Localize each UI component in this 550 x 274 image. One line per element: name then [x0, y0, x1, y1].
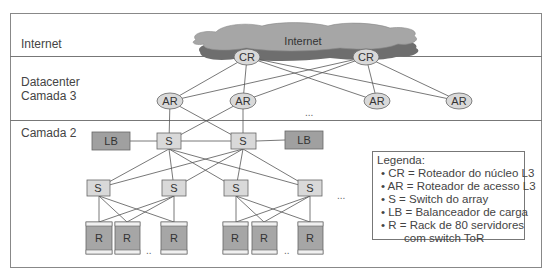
svg-text:S: S — [170, 182, 177, 194]
svg-text:S: S — [232, 182, 239, 194]
core-router-2: CR — [353, 49, 379, 65]
svg-text:R: R — [231, 232, 239, 244]
rack-2: R — [115, 222, 140, 254]
svg-text:CR: CR — [239, 51, 255, 63]
rack-6: R — [298, 222, 323, 254]
access-router-4: AR — [446, 93, 472, 109]
legend-title: Legenda: — [377, 154, 524, 167]
svg-text:S: S — [306, 182, 313, 194]
svg-text:S: S — [239, 135, 246, 147]
svg-text:LB: LB — [297, 134, 310, 146]
svg-text:R: R — [306, 232, 314, 244]
legend-item-r: • R = Rack de 80 servidores — [377, 219, 524, 232]
core-router-1: CR — [234, 49, 260, 65]
svg-text:R: R — [95, 232, 103, 244]
access-router-2: AR — [230, 93, 256, 109]
legend-item-r-continuation: com switch ToR — [377, 232, 524, 245]
cloud-label: Internet — [284, 35, 321, 47]
rack-4: R — [223, 222, 248, 254]
legend-item-cr: • CR = Roteador do núcleo L3 — [377, 167, 524, 180]
svg-text:R: R — [260, 232, 268, 244]
svg-text:AR: AR — [235, 95, 250, 107]
svg-text:R: R — [123, 232, 131, 244]
access-switch-1: S — [87, 180, 110, 196]
rack-5: R — [252, 222, 277, 254]
svg-text:AR: AR — [162, 95, 177, 107]
ar-row-ellipsis: ... — [305, 107, 313, 118]
rack-group-1-ellipsis: .. — [146, 245, 152, 256]
load-balancer-1: LB — [92, 132, 130, 150]
legend-item-lb: • LB = Balanceador de carga — [377, 206, 524, 219]
svg-text:LB: LB — [104, 135, 117, 147]
svg-text:CR: CR — [358, 51, 374, 63]
svg-text:AR: AR — [451, 95, 466, 107]
svg-text:S: S — [94, 182, 101, 194]
agg-switch-2: S — [231, 133, 256, 149]
access-router-3: AR — [364, 93, 390, 109]
rack-1: R — [86, 222, 112, 254]
access-switch-3: S — [224, 180, 248, 196]
switch-row-ellipsis: ... — [337, 190, 345, 201]
svg-text:S: S — [165, 135, 172, 147]
access-switch-2: S — [162, 180, 186, 196]
access-switch-4: S — [298, 180, 322, 196]
svg-text:AR: AR — [369, 95, 384, 107]
svg-text:R: R — [170, 232, 178, 244]
access-router-1: AR — [157, 93, 183, 109]
legend-item-s: • S = Switch do array — [377, 193, 524, 206]
rack-group-2-ellipsis: .. — [284, 245, 290, 256]
rack-3: R — [161, 222, 187, 254]
load-balancer-2: LB — [285, 131, 323, 149]
agg-switch-1: S — [157, 133, 181, 149]
legend-box: Legenda: • CR = Roteador do núcleo L3 • … — [372, 151, 525, 240]
legend-item-ar: • AR = Roteador de acesso L3 — [377, 180, 524, 193]
